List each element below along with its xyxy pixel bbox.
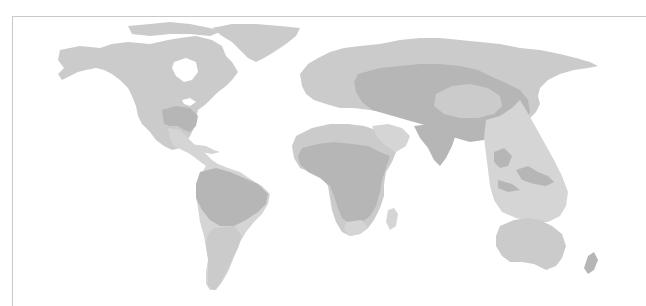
north-america	[58, 22, 238, 168]
india	[414, 124, 456, 166]
oceania	[484, 100, 598, 274]
south-america	[196, 164, 270, 290]
australia	[496, 218, 566, 270]
world-map	[0, 0, 646, 306]
new-zealand	[584, 252, 598, 274]
madagascar	[386, 208, 398, 230]
